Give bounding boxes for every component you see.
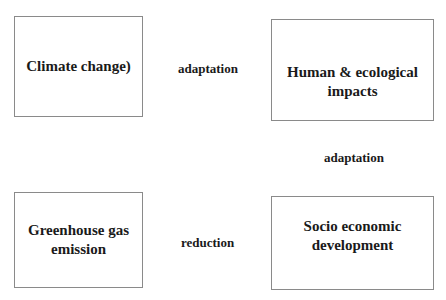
label-adaptation-top: adaptation xyxy=(178,61,238,77)
box-socio-economic-development-line2: development xyxy=(312,236,394,255)
box-climate-change-label: Climate change) xyxy=(26,57,131,76)
box-human-ecological-impacts-line1: Human & ecological xyxy=(272,63,433,82)
box-human-ecological-impacts: Human & ecological impacts xyxy=(271,19,434,121)
box-socio-economic-development: Socio economic development xyxy=(271,196,434,290)
box-greenhouse-gas-emission-line2: emission xyxy=(51,240,106,259)
label-reduction-bottom: reduction xyxy=(181,235,234,251)
box-human-ecological-impacts-line2: impacts xyxy=(272,82,433,101)
box-greenhouse-gas-emission: Greenhouse gas emission xyxy=(14,192,143,288)
box-greenhouse-gas-emission-line1: Greenhouse gas xyxy=(28,221,129,240)
box-climate-change: Climate change) xyxy=(14,16,143,117)
box-socio-economic-development-line1: Socio economic xyxy=(304,217,402,236)
label-adaptation-right: adaptation xyxy=(324,150,384,166)
